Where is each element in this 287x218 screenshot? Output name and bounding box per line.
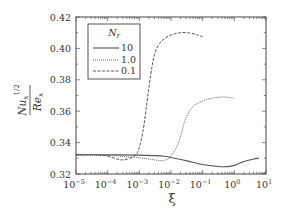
x-tick-labels: 10−510−410−310−210−1100101 [63, 178, 272, 190]
y-tick-label: 0.42 [50, 12, 71, 23]
y-label-den-sub: x [36, 92, 45, 97]
x-tick-label: 101 [256, 178, 272, 190]
chart: 10−510−410−310−210−1100101 0.320.340.360… [0, 0, 287, 218]
y-tick-label: 0.34 [50, 137, 71, 148]
x-axis-label: ξ [168, 191, 175, 206]
y-tick-labels: 0.320.340.360.380.400.42 [50, 12, 71, 180]
svg-text:Rex: Rex [31, 92, 45, 112]
svg-text:Nux1/2: Nux1/2 [13, 84, 30, 116]
legend-label-1: 1.0 [121, 54, 136, 65]
x-tick-label: 10−2 [158, 178, 180, 190]
x-tick-label: 100 [224, 178, 240, 190]
legend-label-0-1: 0.1 [121, 65, 136, 76]
y-label-den-base: Re [31, 97, 43, 112]
legend-label-10: 10 [121, 42, 133, 53]
y-tick-label: 0.36 [50, 106, 71, 117]
y-label-num-base: Nu [16, 100, 28, 117]
series-line-nr-1-0 [76, 97, 234, 161]
y-axis-label: Nux1/2 Rex [13, 84, 45, 116]
x-tick-label: 10−4 [95, 178, 117, 190]
x-tick-label: 10−3 [126, 178, 148, 190]
x-tick-label: 10−1 [190, 178, 212, 190]
y-label-exp: 1/2 [13, 84, 21, 95]
y-tick-label: 0.38 [50, 74, 71, 85]
series-line-nr-10 [76, 155, 259, 167]
x-tick-label: 10−5 [63, 178, 85, 190]
y-tick-label: 0.32 [50, 169, 71, 180]
y-label-num-sub: x [21, 95, 30, 100]
legend: Nr 10 1.0 0.1 [88, 24, 140, 79]
y-tick-label: 0.40 [50, 43, 71, 54]
